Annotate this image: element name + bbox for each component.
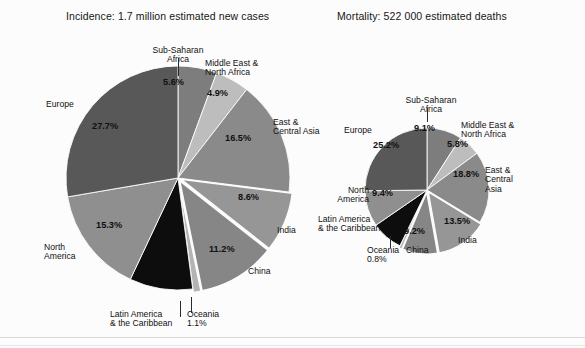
pie-slice bbox=[365, 128, 427, 191]
mortality-value-china: 9.2% bbox=[404, 227, 425, 236]
mortality-value-north-america: 9.4% bbox=[372, 189, 393, 198]
mortality-label-middle-east-north-africa: Middle East & North Africa bbox=[461, 121, 514, 140]
mortality-value-india: 13.5% bbox=[444, 217, 470, 226]
mortality-value-middle-east-north-africa: 5.8% bbox=[447, 140, 468, 149]
mortality-leader-sub-saharan-africa bbox=[427, 108, 428, 122]
mortality-leader-oceania bbox=[390, 236, 391, 248]
mortality-label-sub-saharan-africa: Sub-Saharan Africa bbox=[398, 96, 464, 115]
mortality-value-oceania: 0.8% bbox=[367, 255, 387, 264]
mortality-value-sub-saharan-africa: 9.1% bbox=[414, 124, 435, 133]
bottom-divider-secondary bbox=[0, 345, 585, 346]
mortality-label-east-central-asia: East & Central Asia bbox=[485, 166, 513, 194]
mortality-value-europe: 25.2% bbox=[373, 141, 399, 150]
mortality-label-north-america: North America bbox=[327, 186, 369, 205]
mortality-label-india: India bbox=[458, 236, 477, 245]
figure-canvas: Incidence: 1.7 million estimated new cas… bbox=[0, 0, 585, 348]
mortality-label-china: China bbox=[406, 246, 429, 255]
mortality-label-latin-america: Latin America & the Caribbean bbox=[318, 215, 380, 234]
mortality-value-east-central-asia: 18.8% bbox=[453, 170, 479, 179]
mortality-label-europe: Europe bbox=[344, 126, 372, 135]
bottom-divider bbox=[0, 337, 585, 338]
